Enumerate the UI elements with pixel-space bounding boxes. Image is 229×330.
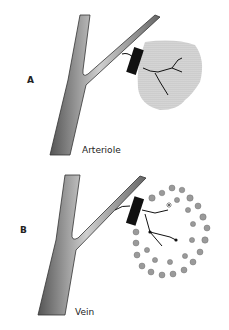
tissue-area (138, 41, 202, 110)
panel-a-caption: Arteriole (82, 145, 121, 155)
panel-a (50, 15, 202, 155)
diagram-canvas (0, 0, 229, 330)
panel-b-letter: B (20, 225, 27, 235)
occlusion-block-b (126, 196, 144, 226)
panel-b (38, 175, 210, 315)
venule-branches (142, 210, 176, 246)
clot-dot (148, 230, 151, 233)
star-cell (166, 202, 172, 208)
cell-ring (133, 185, 210, 278)
clot-dot (174, 238, 177, 241)
panel-a-letter: A (27, 75, 34, 85)
vein-vessel (38, 175, 146, 315)
panel-b-caption: Vein (75, 307, 94, 317)
